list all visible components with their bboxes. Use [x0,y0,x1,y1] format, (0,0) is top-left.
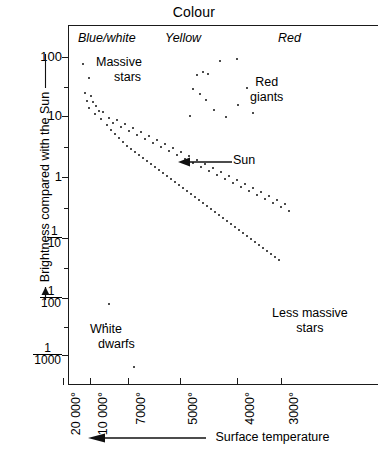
plot-top-border [68,25,378,26]
y-axis-minor-tick [64,208,68,209]
scatter-point-main-sequence [98,110,100,112]
scatter-point-main-sequence [198,199,200,201]
scatter-point-main-sequence [190,193,192,195]
scatter-point-main-sequence [266,250,268,252]
scatter-point-main-sequence [264,198,266,200]
x-axis-tick-mark [237,378,238,385]
colour-band-yellow: Yellow [165,31,201,45]
scatter-point-red-giants [207,73,209,75]
scatter-point-main-sequence [95,105,97,107]
x-axis-direction-arrow [88,433,206,443]
scatter-point-main-sequence [82,63,84,65]
annotation-red-giants-line2: giants [250,90,283,105]
scatter-point-main-sequence [224,178,226,180]
scatter-point-red-giants [202,71,204,73]
scatter-point-red-giants [192,88,194,90]
scatter-point-main-sequence [120,126,122,128]
scatter-point-main-sequence [272,202,274,204]
scatter-point-main-sequence [88,107,90,109]
scatter-point-main-sequence [154,166,156,168]
scatter-point-main-sequence [222,217,224,219]
scatter-point-main-sequence [114,133,116,135]
scatter-point-red-giants [213,109,215,111]
scatter-point-main-sequence [240,186,242,188]
y-axis-title: Brightness compared with the Sun [38,37,52,317]
scatter-point-main-sequence [146,160,148,162]
scatter-point-main-sequence [116,119,118,121]
scatter-point-main-sequence [160,146,162,148]
scatter-point-main-sequence [268,195,270,197]
scatter-point-main-sequence [244,183,246,185]
scatter-point-main-sequence [106,124,108,126]
scatter-point-main-sequence [274,256,276,258]
scatter-point-main-sequence [206,205,208,207]
scatter-point-main-sequence [228,175,230,177]
scatter-point-main-sequence [230,223,232,225]
annotation-white-dwarfs: White dwarfs [90,322,135,352]
scatter-point-main-sequence [122,141,124,143]
scatter-point-main-sequence [220,171,222,173]
colour-band-blue-white: Blue/white [78,31,136,45]
scatter-point-main-sequence [250,238,252,240]
x-axis-tick-label: 5000° [186,392,200,425]
scatter-point-main-sequence [90,95,92,97]
x-axis-tick-mark [128,378,129,385]
scatter-point-main-sequence [248,190,250,192]
scatter-point-main-sequence [178,184,180,186]
x-axis-tick-mark [281,378,282,385]
scatter-point-main-sequence [110,129,112,131]
scatter-point-red-giants [189,115,191,117]
scatter-point-main-sequence [284,203,286,205]
y-axis-minor-tick [64,147,68,148]
scatter-point-red-giants [237,104,239,106]
scatter-point-main-sequence [186,190,188,192]
plot-left-axis [68,25,69,385]
hr-diagram-figure: Colour Blue/white Yellow Red Massive sta… [0,0,388,459]
scatter-point-main-sequence [126,145,128,147]
annotation-red-giants-line1: Red [250,75,283,90]
annotation-massive-stars-line1: Massive [96,55,142,70]
plot-bottom-axis [68,384,378,385]
scatter-point-main-sequence [150,163,152,165]
annotation-sun: Sun [233,153,255,167]
scatter-point-main-sequence [210,208,212,210]
scatter-point-main-sequence [232,182,234,184]
scatter-point-red-giants [219,60,221,62]
scatter-point-main-sequence [94,113,96,115]
scatter-point-main-sequence [260,191,262,193]
y-axis-tick-mark [62,238,68,239]
scatter-point-red-giants [225,116,227,118]
scatter-point-main-sequence [172,147,174,149]
x-axis-title: Surface temperature [88,430,348,444]
scatter-point-red-giants [236,58,238,60]
y-axis-tick-mark [62,355,68,356]
y-axis-direction-arrow [41,286,50,300]
x-axis-tick-label: 3000° [287,392,301,425]
y-axis-minor-tick [64,327,68,328]
scatter-point-main-sequence [270,253,272,255]
scatter-point-main-sequence [170,178,172,180]
scatter-point-main-sequence [208,170,210,172]
annotation-massive-stars-line2: stars [96,70,142,85]
scatter-point-main-sequence [276,199,278,201]
scatter-point-main-sequence [92,101,94,103]
scatter-point-main-sequence [226,220,228,222]
scatter-point-main-sequence [258,244,260,246]
scatter-point-main-sequence [138,154,140,156]
scatter-point-main-sequence [182,187,184,189]
scatter-point-main-sequence [144,138,146,140]
scatter-point-main-sequence [130,148,132,150]
colour-band-red: Red [278,31,301,45]
scatter-point-main-sequence [180,151,182,153]
x-axis-tick-label: 4000° [243,392,257,425]
scatter-point-main-sequence [218,214,220,216]
scatter-point-main-sequence [124,123,126,125]
scatter-point-main-sequence [84,92,86,94]
annotation-less-massive-line1: Less massive [272,306,348,321]
scatter-point-red-giants [246,87,248,89]
y-axis-tick-mark [62,177,68,178]
scatter-point-main-sequence [134,151,136,153]
chart-title: Colour [0,4,388,20]
scatter-point-main-sequence [242,232,244,234]
y-axis-tail-line [41,54,50,88]
